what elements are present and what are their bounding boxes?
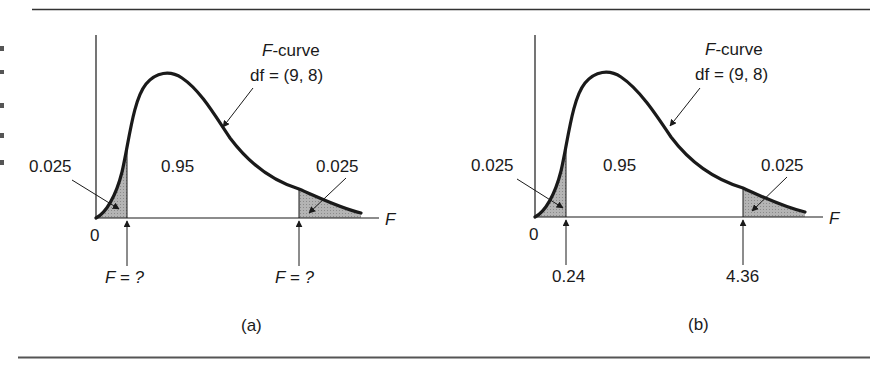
f-curve — [535, 72, 805, 217]
curve-title-rest: -curve — [715, 40, 762, 59]
upper-cutoff-label: F = ? — [275, 268, 314, 287]
panel-caption: (a) — [241, 316, 262, 335]
upper-cutoff-label: 4.36 — [726, 267, 759, 286]
curve-pointer-arrow — [670, 88, 700, 126]
lower-cutoff-label: F = ? — [105, 268, 144, 287]
middle-area-label: 0.95 — [603, 156, 636, 175]
figure: F-curve df = (9, 8) 0.025 0.95 0.025 0 F… — [0, 0, 870, 377]
curve-pointer-arrow — [223, 88, 253, 127]
right-tail-label: 0.025 — [316, 157, 359, 176]
left-tail-label: 0.025 — [471, 156, 514, 175]
f-curve — [96, 73, 361, 218]
panel-a: F-curve df = (9, 8) 0.025 0.95 0.025 0 F… — [29, 35, 397, 335]
origin-label: 0 — [529, 225, 538, 244]
df-label: df = (9, 8) — [250, 66, 323, 85]
middle-area-label: 0.95 — [161, 157, 194, 176]
curve-title: F-curve — [262, 41, 320, 60]
curve-title-rest: -curve — [272, 41, 319, 60]
left-tail-label: 0.025 — [29, 157, 72, 176]
origin-label: 0 — [90, 226, 99, 245]
panel-b: F-curve df = (9, 8) 0.025 0.95 0.025 0 F… — [471, 35, 841, 334]
right-tail-label: 0.025 — [761, 156, 804, 175]
curve-title: F-curve — [705, 40, 763, 59]
lower-cutoff-label: 0.24 — [552, 267, 585, 286]
x-axis-label: F — [385, 210, 397, 229]
df-label: df = (9, 8) — [695, 65, 768, 84]
panel-caption: (b) — [688, 315, 709, 334]
x-axis-label: F — [829, 209, 841, 228]
left-tail-shade — [96, 150, 127, 218]
